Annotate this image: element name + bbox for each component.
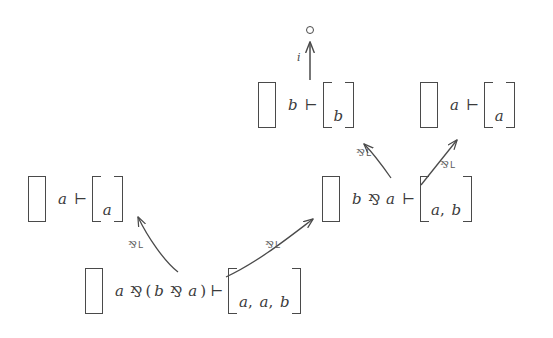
- goal-node-circle: [306, 26, 314, 34]
- edge-label-init-rule: i: [297, 52, 301, 63]
- empty-context-bracket: [258, 82, 276, 128]
- sequent-node-a-entails-a-top[interactable]: a ⊢ a: [420, 82, 515, 128]
- edge-label-parL-to-a-top: &L: [440, 158, 455, 170]
- sequent-node-b-par-a[interactable]: b & a ⊢ a, b: [322, 176, 472, 222]
- turnstile-symbol: ⊢: [210, 284, 223, 299]
- edge-label-parL-to-b: &L: [356, 146, 371, 158]
- par-operator-icon: &: [440, 159, 449, 169]
- antecedent-operand-b: b: [154, 284, 164, 299]
- derivation-diagram: o --> [ ] b |- [b] --> [ ] a |- [a] (top…: [0, 0, 553, 338]
- par-operator-icon: &: [356, 147, 365, 157]
- succedent-bracket-list: a: [484, 82, 515, 128]
- antecedent-formula: b: [288, 98, 298, 113]
- rule-side-subscript: L: [138, 240, 143, 250]
- par-operator-icon: &: [170, 284, 182, 298]
- succedent-item: a: [431, 203, 440, 218]
- rule-side-subscript: L: [450, 160, 455, 170]
- par-operator-icon: &: [130, 284, 142, 298]
- comma-separator: ,: [248, 295, 258, 310]
- paren-open-symbol: (: [145, 284, 151, 299]
- paren-close-symbol: ): [200, 284, 206, 299]
- rule-side-subscript: L: [275, 240, 280, 250]
- antecedent-formula: a: [450, 98, 459, 113]
- empty-context-bracket: [28, 176, 46, 222]
- antecedent-operand-a: a: [386, 192, 395, 207]
- comma-separator: ,: [269, 295, 279, 310]
- edge-label-parL-to-bpara: &L: [265, 238, 280, 250]
- par-operator-icon: &: [265, 239, 274, 249]
- sequent-node-b-entails-b[interactable]: b ⊢ b: [258, 82, 354, 128]
- sequent-node-root[interactable]: a & ( b & a ) ⊢ a, a, b: [85, 268, 301, 314]
- turnstile-symbol: ⊢: [402, 192, 415, 207]
- edge-parL-to-a-left: [138, 217, 178, 272]
- succedent-bracket-list: a: [92, 176, 123, 222]
- succedent-item: a: [495, 109, 504, 124]
- empty-context-bracket: [322, 176, 340, 222]
- succedent-item: b: [280, 295, 290, 310]
- par-operator-icon: &: [368, 192, 380, 206]
- comma-separator: ,: [440, 203, 450, 218]
- succedent-bracket-list: b: [323, 82, 355, 128]
- sequent-node-a-entails-a-left[interactable]: a ⊢ a: [28, 176, 123, 222]
- succedent-item: a: [239, 295, 248, 310]
- empty-context-bracket: [420, 82, 438, 128]
- succedent-item: b: [334, 109, 344, 124]
- succedent-item: a: [103, 203, 112, 218]
- edge-label-parL-to-a-left: &L: [128, 238, 143, 250]
- antecedent-formula: a: [58, 192, 67, 207]
- succedent-item: a: [260, 295, 269, 310]
- succedent-item: b: [451, 203, 461, 218]
- empty-context-bracket: [85, 268, 103, 314]
- succedent-bracket-list: a, a, b: [228, 268, 301, 314]
- antecedent-operand-a2: a: [188, 284, 197, 299]
- turnstile-symbol: ⊢: [466, 98, 479, 113]
- succedent-bracket-list: a, b: [420, 176, 472, 222]
- antecedent-operand-b: b: [352, 192, 362, 207]
- turnstile-symbol: ⊢: [74, 192, 87, 207]
- antecedent-operand-a: a: [115, 284, 124, 299]
- par-operator-icon: &: [128, 239, 137, 249]
- turnstile-symbol: ⊢: [305, 98, 318, 113]
- rule-side-subscript: L: [366, 148, 371, 158]
